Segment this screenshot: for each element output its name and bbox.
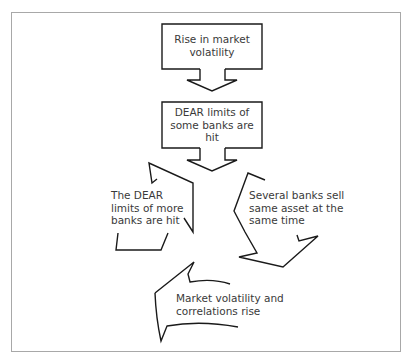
node-line: hit <box>162 131 262 144</box>
node-rise-in-volatility: Rise in market volatility <box>162 33 262 58</box>
node-line: DEAR limits of <box>162 106 262 119</box>
arrow-left-bottom <box>116 233 168 250</box>
node-several-banks-sell: Several banks sell same asset at the sam… <box>249 189 344 227</box>
node-dear-limits-some-banks: DEAR limits of some banks are hit <box>162 106 262 144</box>
node-line: Rise in market <box>162 33 262 46</box>
node-line: limits of more <box>111 202 184 215</box>
node-line: some banks are <box>162 119 262 132</box>
node-market-volatility-correlations: Market volatility and correlations rise <box>176 292 284 317</box>
node-line: The DEAR <box>111 189 184 202</box>
node-line: banks are hit <box>111 214 184 227</box>
node-line: volatility <box>162 46 262 59</box>
node-line: Market volatility and <box>176 292 284 305</box>
node-line: same time <box>249 214 344 227</box>
node-line: Several banks sell <box>249 189 344 202</box>
arrow-down-1 <box>187 69 237 91</box>
arrow-bottom-upper <box>155 262 230 293</box>
arrow-down-2 <box>187 148 237 171</box>
node-dear-limits-more-banks: The DEAR limits of more banks are hit <box>111 189 184 227</box>
node-line: correlations rise <box>176 305 284 318</box>
node-line: same asset at the <box>249 202 344 215</box>
